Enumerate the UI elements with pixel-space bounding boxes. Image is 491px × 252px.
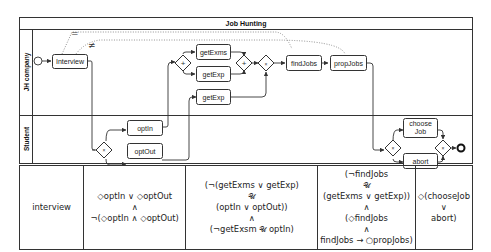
svg-text:+: + xyxy=(181,59,186,68)
task-findjobs[interactable]: findJobs xyxy=(287,56,322,71)
table-cell-interview: interview xyxy=(20,166,84,250)
svg-text:optIn: optIn xyxy=(137,125,153,133)
svg-text:×: × xyxy=(103,147,106,153)
svg-text:getExp: getExp xyxy=(203,71,225,79)
table-row: interview ◇optIn ∨ ◇optOut ∧ ¬(◇optIn ∧ … xyxy=(20,166,473,250)
end-event xyxy=(458,145,465,152)
task-interview[interactable]: Interview xyxy=(53,55,88,69)
task-getexp-1[interactable]: getExp xyxy=(197,67,231,82)
table-cell-get-exams-exp: (¬(getExms ∨ getExp) 𝒰 (optIn ∨ optOut))… xyxy=(186,166,318,250)
task-propjobs[interactable]: propJobs xyxy=(331,56,367,71)
task-optin[interactable]: optIn xyxy=(128,121,163,136)
start-event xyxy=(34,57,42,65)
table-cell-optin-optout: ◇optIn ∨ ◇optOut ∧ ¬(◇optIn ∧ ◇optOut) xyxy=(84,166,186,250)
table-cell-find-prop-jobs: (¬findJobs 𝒰 (getExms ∨ getExp)) ∧ (◇fin… xyxy=(318,166,415,250)
svg-text:×: × xyxy=(265,61,268,67)
lane-label-jh-company: JH company xyxy=(23,52,31,91)
svg-text:choose: choose xyxy=(409,120,432,127)
svg-text:propJobs: propJobs xyxy=(334,60,363,68)
task-getexms[interactable]: getExms xyxy=(197,45,231,60)
svg-text:getExms: getExms xyxy=(200,49,228,57)
svg-text:×: × xyxy=(442,145,445,151)
task-optout[interactable]: optOut xyxy=(128,144,163,159)
svg-text:×: × xyxy=(392,145,395,151)
svg-text:optOut: optOut xyxy=(134,148,155,156)
svg-text:getExp: getExp xyxy=(203,94,225,102)
svg-text:Job: Job xyxy=(415,128,426,135)
svg-text:Interview: Interview xyxy=(56,58,85,65)
table-cell-choose-abort: ◇(chooseJob ∨ abort) xyxy=(415,166,472,250)
task-choose-job[interactable]: choose Job xyxy=(404,119,438,138)
ltl-constraints-table: interview ◇optIn ∨ ◇optOut ∧ ¬(◇optIn ∧ … xyxy=(19,165,473,250)
lane-label-student: Student xyxy=(23,126,30,151)
svg-text:abort: abort xyxy=(413,158,429,165)
not-equal-annotation: ≠ xyxy=(88,40,96,50)
svg-text:+: + xyxy=(242,59,247,68)
svg-text:findJobs: findJobs xyxy=(291,60,318,67)
task-getexp-2[interactable]: getExp xyxy=(197,90,231,105)
equal-annotation: = xyxy=(71,28,79,38)
pool-title: Job Hunting xyxy=(226,20,267,28)
